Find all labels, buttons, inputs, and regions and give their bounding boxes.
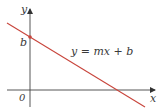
intercept-label: b: [20, 36, 27, 49]
x-axis-label: x: [150, 92, 157, 105]
line-y-mx-b: [7, 23, 145, 107]
equation-label: y = mx + b: [70, 45, 133, 58]
line-diagram: y b 0 x y = mx + b: [0, 0, 159, 110]
y-intercept-point: [28, 35, 32, 39]
y-axis-label: y: [20, 3, 28, 16]
origin-label: 0: [19, 92, 26, 103]
